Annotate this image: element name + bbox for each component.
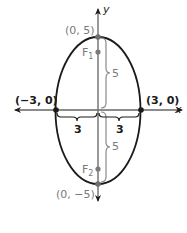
vertex-left-point (53, 107, 59, 113)
focus-f2-label: F2 (82, 163, 93, 178)
brace-semi-major-bottom (101, 112, 110, 182)
semi-minor-left-label: 3 (74, 123, 82, 136)
vertex-bottom-label: (0, −5) (56, 188, 95, 201)
focus-f1-label: F1 (82, 46, 93, 61)
vertex-right-point (138, 107, 144, 113)
semi-major-bottom-label: 5 (112, 140, 119, 153)
y-axis-label: y (102, 3, 110, 16)
ellipse-diagram: y x (0, 5) (0, −5) (−3, 0) (3, 0) F1 F2 … (0, 0, 187, 233)
vertex-top-label: (0, 5) (65, 24, 95, 37)
brace-semi-minor-left (57, 113, 97, 121)
focus-f2-point (95, 166, 100, 171)
semi-minor-right-label: 3 (116, 123, 124, 136)
focus-f1-point (95, 49, 100, 54)
brace-semi-major-top (101, 38, 110, 108)
vertex-right-label: (3, 0) (146, 94, 179, 107)
vertex-bottom-point (95, 181, 101, 187)
vertex-top-point (95, 34, 101, 40)
vertex-left-label: (−3, 0) (15, 94, 58, 107)
semi-major-top-label: 5 (112, 67, 119, 80)
